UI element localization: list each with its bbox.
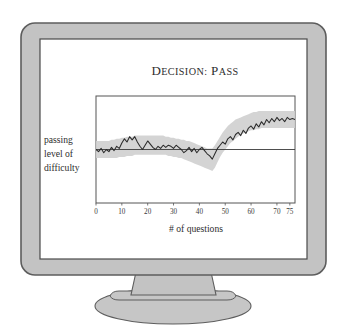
monitor-illustration: DECISION: PASS passing level of difficul… [0,0,347,330]
x-tick-label: 0 [94,208,98,216]
chart-title: DECISION: PASS [151,63,238,78]
title-rest-pass: ASS [219,66,239,77]
y-axis-label-line-1: passing [44,134,73,145]
x-axis-label: # of questions [169,223,223,234]
x-tick-label: 50 [222,208,230,216]
x-tick-label: 30 [170,208,178,216]
title-rest-decision: ECISION [161,66,204,77]
title-initial-decision: D [151,63,161,78]
x-tick-label: 75 [286,208,294,216]
x-tick-label: 10 [118,208,126,216]
title-initial-pass-letter: P [211,63,219,78]
y-axis-label-line-2: level of [44,148,74,159]
x-tick-label: 60 [247,208,255,216]
x-tick-label: 40 [196,208,204,216]
x-tick-label: 20 [144,208,152,216]
y-axis-label-line-3: difficulty [44,162,80,173]
x-tick-label: 70 [273,208,281,216]
